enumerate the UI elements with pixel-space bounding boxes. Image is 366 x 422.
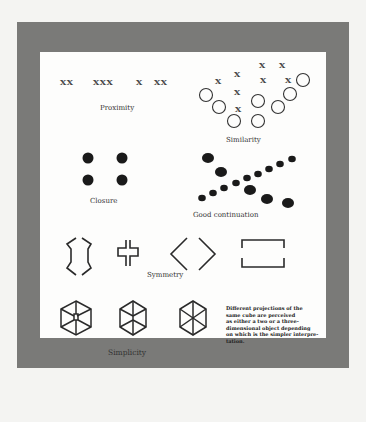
simplicity-label: Simplicity bbox=[108, 348, 146, 357]
simplicity-cubes bbox=[0, 0, 366, 422]
simplicity-note: Different projections of the same cube a… bbox=[226, 305, 321, 345]
note-line: on which is the simpler interpre- bbox=[226, 331, 321, 338]
note-line: same cube are perceived bbox=[226, 312, 321, 319]
note-line: as either a two or a three- bbox=[226, 318, 321, 325]
note-line: dimensional object depending bbox=[226, 325, 321, 332]
note-line: tation. bbox=[226, 338, 321, 345]
note-line: Different projections of the bbox=[226, 305, 321, 312]
